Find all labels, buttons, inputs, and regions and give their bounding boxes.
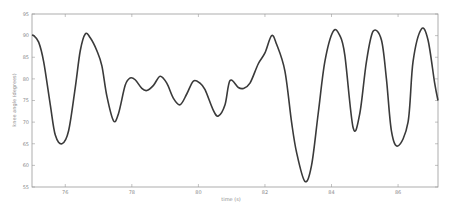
- x-tick-label: 80: [195, 189, 201, 195]
- y-axis-label: knee angle (degrees): [11, 73, 18, 126]
- y-tick-label: 60: [23, 162, 29, 168]
- x-axis-label: time (s): [221, 196, 240, 202]
- x-tick-label: 78: [129, 189, 135, 195]
- y-tick-label: 85: [23, 54, 29, 60]
- y-tick-label: 80: [23, 76, 29, 82]
- plot-frame: [32, 14, 438, 187]
- knee-angle-line: [32, 28, 438, 182]
- y-tick-label: 90: [23, 32, 29, 38]
- x-tick-label: 86: [395, 189, 401, 195]
- y-tick-label: 95: [23, 11, 29, 17]
- y-tick-label: 65: [23, 141, 29, 147]
- y-tick-label: 75: [23, 97, 29, 103]
- y-axis: 556065707580859095: [23, 11, 438, 190]
- x-tick-label: 84: [328, 189, 334, 195]
- line-chart: 556065707580859095 767880828486 time (s)…: [0, 0, 450, 209]
- x-tick-label: 76: [62, 189, 68, 195]
- y-tick-label: 55: [23, 184, 29, 190]
- x-tick-label: 82: [262, 189, 268, 195]
- y-tick-label: 70: [23, 119, 29, 125]
